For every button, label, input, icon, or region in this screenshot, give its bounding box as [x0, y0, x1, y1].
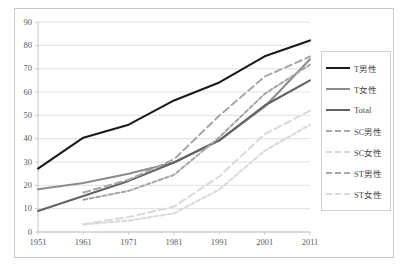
y-axis-tick-label: 70: [10, 64, 32, 72]
series-line-1: [38, 59, 310, 189]
legend-label: SC男性: [354, 125, 382, 137]
legend-label: Total: [354, 105, 371, 115]
x-axis-tick-label: 1951: [18, 238, 58, 246]
legend-item[interactable]: SC女性: [322, 141, 390, 162]
x-axis-tick-label: 2011: [290, 238, 330, 246]
y-axis-tick-label: 80: [10, 41, 32, 49]
y-axis-tick-label: 20: [10, 181, 32, 189]
legend-item[interactable]: ST男性: [322, 162, 390, 183]
legend-swatch-line: [326, 88, 350, 90]
series-line-0: [38, 40, 310, 168]
legend-label: T男性: [354, 62, 377, 74]
chart-legend: T男性T女性TotalSC男性SC女性ST男性ST女性: [321, 51, 391, 211]
x-axis-tick-label: 1971: [109, 238, 149, 246]
legend-swatch-line: [326, 172, 350, 174]
legend-item[interactable]: Total: [322, 99, 390, 120]
legend-label: ST男性: [354, 167, 382, 179]
legend-swatch-line: [326, 109, 350, 111]
legend-swatch-line: [326, 193, 350, 195]
legend-swatch-line: [326, 130, 350, 132]
legend-swatch-line: [326, 67, 350, 69]
series-line-6: [83, 125, 310, 225]
legend-item[interactable]: T男性: [322, 57, 390, 78]
legend-label: ST女性: [354, 188, 382, 200]
y-axis-tick-label: 0: [10, 228, 32, 236]
x-axis-tick-label: 1961: [63, 238, 103, 246]
legend-label: SC女性: [354, 146, 382, 158]
y-axis-tick-label: 40: [10, 134, 32, 142]
legend-label: T女性: [354, 83, 377, 95]
x-axis-tick-label: 1981: [154, 238, 194, 246]
y-axis-tick-label: 10: [10, 204, 32, 212]
legend-item[interactable]: SC男性: [322, 120, 390, 141]
legend-item[interactable]: T女性: [322, 78, 390, 99]
x-axis-tick-label: 1991: [199, 238, 239, 246]
legend-swatch-line: [326, 151, 350, 153]
y-axis-tick-label: 30: [10, 158, 32, 166]
series-line-5: [83, 65, 310, 200]
series-line-3: [83, 57, 310, 193]
y-axis-tick-label: 90: [10, 18, 32, 26]
legend-item[interactable]: ST女性: [322, 183, 390, 204]
x-axis-tick-label: 2001: [245, 238, 285, 246]
y-axis-tick-label: 50: [10, 111, 32, 119]
y-axis-tick-label: 60: [10, 88, 32, 96]
